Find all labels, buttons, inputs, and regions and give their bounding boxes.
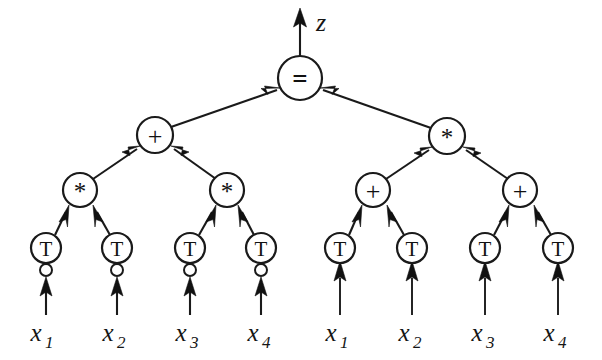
node-label: + bbox=[513, 177, 528, 206]
node-label: T bbox=[255, 237, 268, 261]
leaf-base: x bbox=[101, 319, 113, 346]
leaf-base: x bbox=[397, 319, 409, 346]
node-label: T bbox=[111, 237, 124, 261]
edge-t8-to-r2 bbox=[534, 205, 551, 235]
leaf-subscript: 1 bbox=[340, 333, 349, 352]
leaf-label-x2b: x 2 bbox=[397, 319, 422, 352]
leaf-subscript: 2 bbox=[117, 333, 126, 352]
edge-t4-to-l2 bbox=[238, 205, 254, 235]
arrow-head-icon bbox=[387, 205, 397, 227]
edge-t2-to-l1 bbox=[93, 205, 110, 235]
leaf-subscript: 1 bbox=[45, 333, 54, 352]
leaf-label-x4a: x 4 bbox=[246, 319, 271, 352]
node-label: T bbox=[406, 237, 419, 261]
leaf-subscript: 3 bbox=[485, 333, 495, 352]
edge-right-mult-to-root bbox=[320, 86, 431, 128]
leaf-base: x bbox=[470, 319, 482, 346]
inverter-bubble-t4 bbox=[255, 264, 267, 276]
node-operator-left-plus[interactable]: + bbox=[137, 117, 173, 153]
input-arrow-x4b bbox=[552, 261, 564, 315]
node-operator-right-mult[interactable]: * bbox=[429, 118, 465, 154]
node-label: = bbox=[292, 64, 307, 94]
leaf-base: x bbox=[29, 319, 41, 346]
node-label: + bbox=[366, 177, 381, 206]
node-label: * bbox=[221, 178, 234, 205]
edge-line bbox=[171, 90, 277, 127]
edge-t5-to-r1 bbox=[349, 205, 362, 235]
inverter-bubble-t3 bbox=[184, 264, 196, 276]
output-label-z: z bbox=[315, 8, 326, 37]
edge-line bbox=[93, 149, 137, 179]
node-operator-l1[interactable]: * bbox=[63, 173, 97, 207]
edge-t6-to-r1 bbox=[387, 205, 404, 235]
leaf-subscript: 4 bbox=[262, 333, 271, 352]
node-terminal-t6[interactable]: T bbox=[397, 233, 427, 263]
node-root-equals[interactable]: = bbox=[278, 56, 322, 100]
input-arrow-x1b bbox=[334, 261, 346, 315]
edge-line bbox=[174, 149, 216, 179]
edge-t1-to-l1 bbox=[55, 205, 69, 235]
node-operator-r1[interactable]: + bbox=[356, 173, 390, 207]
leaf-label-x1b: x 1 bbox=[324, 319, 348, 352]
expression-tree-diagram: z bbox=[0, 0, 602, 360]
node-label: T bbox=[552, 237, 565, 261]
leaf-label-x2a: x 2 bbox=[101, 319, 126, 352]
leaf-base: x bbox=[542, 319, 554, 346]
arrow-head-icon bbox=[93, 205, 103, 227]
input-arrow-x3a bbox=[184, 277, 196, 315]
leaf-base: x bbox=[174, 319, 186, 346]
edge-line bbox=[386, 150, 429, 179]
leaf-subscript: 2 bbox=[413, 333, 422, 352]
node-terminal-t4[interactable]: T bbox=[246, 233, 276, 263]
arrow-head-icon bbox=[534, 205, 544, 227]
inverter-bubble-t2 bbox=[111, 264, 123, 276]
node-label: + bbox=[148, 122, 163, 151]
leaf-subscript: 4 bbox=[558, 333, 567, 352]
output-arrow-group bbox=[294, 8, 307, 57]
arrow-head-icon bbox=[238, 205, 248, 227]
input-arrow-x2a bbox=[111, 277, 123, 315]
edge-line bbox=[323, 90, 431, 128]
edge-l2-to-left-plus bbox=[171, 146, 216, 179]
edge-t3-to-l2 bbox=[199, 205, 216, 235]
node-terminal-t3[interactable]: T bbox=[175, 233, 205, 263]
node-label: T bbox=[184, 237, 197, 261]
leaf-subscript: 3 bbox=[189, 333, 199, 352]
node-terminal-t1[interactable]: T bbox=[31, 233, 61, 263]
input-arrow-x1a bbox=[40, 277, 52, 315]
input-arrow-x4a bbox=[255, 277, 267, 315]
edge-left-plus-to-root bbox=[171, 86, 280, 127]
node-operator-r2[interactable]: + bbox=[503, 173, 537, 207]
node-label: * bbox=[74, 178, 87, 205]
node-terminal-t8[interactable]: T bbox=[543, 233, 573, 263]
leaf-label-x4b: x 4 bbox=[542, 319, 567, 352]
arrow-head-icon bbox=[206, 205, 216, 227]
node-terminal-t5[interactable]: T bbox=[325, 233, 355, 263]
tree-canvas: z bbox=[0, 0, 602, 360]
edge-r1-to-right-mult bbox=[386, 147, 432, 179]
node-label: T bbox=[334, 237, 347, 261]
leaf-label-x1a: x 1 bbox=[29, 319, 53, 352]
node-label: T bbox=[479, 237, 492, 261]
node-label: T bbox=[40, 237, 53, 261]
node-operator-l2[interactable]: * bbox=[210, 173, 244, 207]
node-label: * bbox=[441, 124, 454, 151]
edge-l1-to-left-plus bbox=[93, 146, 140, 179]
leaf-base: x bbox=[324, 319, 336, 346]
edge-line bbox=[466, 150, 508, 179]
input-arrow-x3b bbox=[479, 261, 491, 315]
edge-t7-to-r2 bbox=[494, 205, 509, 235]
leaf-label-x3a: x 3 bbox=[174, 319, 198, 352]
input-arrow-x2b bbox=[406, 261, 418, 315]
leaf-base: x bbox=[246, 319, 258, 346]
node-terminal-t2[interactable]: T bbox=[102, 233, 132, 263]
inverter-bubble-t1 bbox=[40, 264, 52, 276]
leaf-label-x3b: x 3 bbox=[470, 319, 494, 352]
edge-r2-to-right-mult bbox=[463, 147, 508, 179]
node-terminal-t7[interactable]: T bbox=[470, 233, 500, 263]
